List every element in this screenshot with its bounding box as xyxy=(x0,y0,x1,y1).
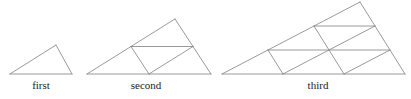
inner-line-parallel-ac xyxy=(149,47,193,75)
triangle-panel-third xyxy=(222,2,405,74)
inner-line-parallel-bc xyxy=(268,50,283,74)
figure-root: first second third xyxy=(0,0,411,99)
triangle-sequence-diagram xyxy=(0,0,411,99)
triangle-edge-right xyxy=(360,2,405,74)
triangle-edge-left xyxy=(222,2,360,74)
triangle-panel-first xyxy=(10,45,72,74)
triangle-panel-second xyxy=(87,19,211,74)
triangle-edge-left xyxy=(10,45,56,74)
panels-group xyxy=(10,2,405,74)
inner-line-parallel-bc xyxy=(131,47,149,75)
triangle-edge-right xyxy=(56,45,72,74)
inner-line-parallel-ac xyxy=(344,50,390,74)
